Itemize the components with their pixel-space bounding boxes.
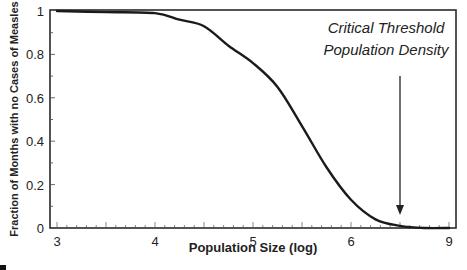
- x-tick-label: 3: [53, 234, 60, 249]
- x-axis-label: Population Size (log): [189, 240, 318, 255]
- y-axis-label: Fraction of Months with no Cases of Meas…: [8, 1, 20, 236]
- x-tick-label: 9: [445, 234, 452, 249]
- x-tick-label: 6: [347, 234, 354, 249]
- annotation-line1: Critical Threshold: [328, 19, 445, 36]
- y-tick-label: 0.8: [26, 47, 44, 62]
- annotation-arrow: [396, 76, 404, 215]
- y-axis-tick-labels: 00.20.40.60.81: [26, 4, 44, 236]
- y-tick-label: 0: [37, 221, 44, 236]
- x-tick-label: 4: [151, 234, 158, 249]
- y-tick-label: 0.2: [26, 178, 44, 193]
- y-tick-label: 0.4: [26, 134, 44, 149]
- y-tick-label: 1: [37, 4, 44, 19]
- caption-residue: [0, 265, 6, 270]
- annotation-line2: Population Density: [323, 41, 450, 58]
- chart: 00.20.40.60.81 34569 Critical Threshold …: [0, 0, 467, 270]
- y-tick-label: 0.6: [26, 91, 44, 106]
